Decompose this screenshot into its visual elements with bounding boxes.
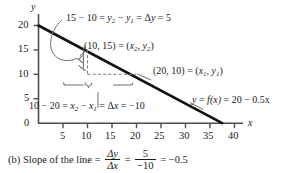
caption-fraction-values: 5 −10 — [135, 148, 155, 171]
dy-eq1: = — [99, 12, 105, 23]
point-label-x1y1: (20, 10) = (x1, y1) — [153, 66, 223, 78]
fn-y: y — [192, 94, 196, 105]
dx-var: x — [114, 100, 118, 111]
delta-y-annotation: 15 − 10 = y2 − y1 = Δy = 5 — [66, 13, 171, 25]
x-tick-label-40: 40 — [228, 131, 239, 142]
delta-x-brace-right — [113, 82, 132, 85]
delta-y-brace-tip-bottom — [83, 69, 85, 71]
fn-arg: (x) — [210, 94, 221, 105]
p1-comma: , — [207, 65, 210, 76]
dy-value: 5 — [166, 12, 171, 23]
dy-eq2: = — [136, 12, 142, 23]
delta-y-brace-lower — [79, 65, 84, 68]
x-tick-label-10: 10 — [81, 131, 92, 142]
dx-b: 20 — [50, 100, 60, 111]
function-equation-label: y = f(x) = 20 − 0.5x — [192, 95, 270, 105]
y-tick-label-15: 15 — [18, 44, 29, 55]
p1-pair: (20, 10) — [153, 65, 185, 76]
caption-den-neg10: −10 — [135, 160, 155, 171]
p1-eq: = — [187, 65, 193, 76]
p1-close: ) — [220, 65, 223, 76]
y-tick-label-0: 0 — [24, 118, 29, 129]
p2-close: ) — [151, 40, 154, 51]
dx-eq1: = — [62, 100, 68, 111]
figure-container: y x 20 15 10 5 0 5 10 15 20 25 30 35 40 … — [0, 0, 282, 173]
delta-y-brace — [79, 56, 84, 63]
dy-var: y — [151, 12, 155, 23]
dx-x1-sub: 1 — [93, 105, 97, 113]
caption-fraction-delta: Δy Δx — [105, 148, 120, 171]
caption-eq3: = — [160, 154, 166, 165]
dy-eq3: = — [158, 12, 164, 23]
dy-b: 10 — [87, 12, 97, 23]
dy-y1-sub: 1 — [130, 17, 134, 25]
dx-minus2: − — [81, 100, 87, 111]
fn-eq2: = — [223, 94, 229, 105]
caption-part: (b) — [8, 154, 20, 165]
caption-den-dx: Δx — [105, 160, 120, 171]
dx-value: −10 — [129, 100, 145, 111]
dx-eq3: = — [121, 100, 127, 111]
delta-x-brace-middle — [85, 82, 92, 87]
dx-eq2: = — [99, 100, 105, 111]
dy-a: 15 — [66, 12, 76, 23]
figure-caption: (b) Slope of the line = Δy Δx = 5 −10 = … — [8, 148, 188, 171]
caption-eq1: = — [95, 154, 101, 165]
dx-minus1: − — [42, 100, 48, 111]
caption-text: Slope of the line — [23, 154, 92, 165]
p2-comma: , — [138, 40, 141, 51]
fn-eq1: = — [199, 94, 205, 105]
y-tick-label-20: 20 — [18, 20, 29, 31]
x-tick-label-15: 15 — [105, 131, 116, 142]
p2-eq: = — [118, 40, 124, 51]
x-tick-label-5: 5 — [60, 131, 65, 142]
x-tick-label-30: 30 — [179, 131, 190, 142]
caption-result: −0.5 — [169, 154, 188, 165]
x-tick-label-25: 25 — [154, 131, 165, 142]
dy-y2-sub: 2 — [112, 17, 116, 25]
caption-eq2: = — [125, 154, 131, 165]
dx-x2-sub: 2 — [75, 105, 79, 113]
dy-minus1: − — [79, 12, 85, 23]
x-tick-label-35: 35 — [203, 131, 214, 142]
point-label-x2y2: (10, 15) = (x2, y2) — [84, 41, 154, 53]
p2-pair: (10, 15) — [84, 40, 116, 51]
x-axis-label: x — [248, 118, 252, 128]
dy-minus2: − — [118, 12, 124, 23]
caption-num-5: 5 — [135, 148, 155, 160]
y-axis-label: y — [31, 2, 35, 12]
fn-expr: 20 − 0.5x — [232, 94, 270, 105]
delta-x-brace-left — [64, 82, 84, 85]
delta-x-annotation: 10 − 20 = x2 − x1 = Δx = −10 — [29, 101, 145, 113]
x-tick-label-20: 20 — [130, 131, 141, 142]
dx-a: 10 — [29, 100, 39, 111]
y-tick-label-10: 10 — [18, 69, 29, 80]
caption-num-dy: Δy — [105, 148, 120, 160]
